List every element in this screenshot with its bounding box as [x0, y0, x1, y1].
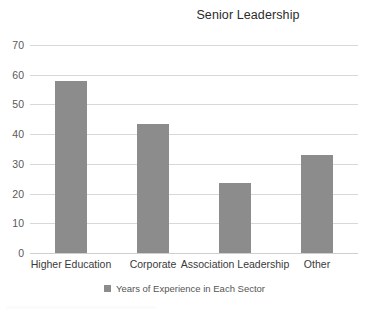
- x-axis-label: Association Leadership: [181, 258, 290, 270]
- x-axis-label: Other: [304, 258, 330, 270]
- legend-swatch-icon: [104, 285, 111, 292]
- y-axis-tick-label: 70: [12, 39, 24, 51]
- y-axis-tick-label: 30: [12, 158, 24, 170]
- bar: [137, 124, 169, 253]
- y-axis-tick-label: 60: [12, 69, 24, 81]
- legend-label: Years of Experience in Each Sector: [116, 283, 265, 294]
- y-axis-tick-label: 40: [12, 128, 24, 140]
- gridline: 70: [30, 45, 358, 46]
- y-axis-tick-label: 20: [12, 188, 24, 200]
- y-axis-tick-label: 10: [12, 217, 24, 229]
- scan-artifact: [6, 306, 156, 309]
- chart-screenshot: Senior Leadership 010203040506070 Higher…: [0, 0, 369, 314]
- y-axis-tick-label: 0: [18, 247, 24, 259]
- plot-area: 010203040506070: [30, 45, 358, 253]
- chart-legend: Years of Experience in Each Sector: [0, 283, 369, 294]
- x-axis-label: Corporate: [130, 258, 177, 270]
- gridline: 0: [30, 253, 358, 254]
- x-axis-labels: Higher EducationCorporateAssociation Lea…: [30, 258, 358, 274]
- chart-title: Senior Leadership: [130, 8, 366, 22]
- bar: [55, 81, 87, 253]
- x-axis-label: Higher Education: [31, 258, 112, 270]
- y-axis-tick-label: 50: [12, 98, 24, 110]
- bar: [219, 183, 251, 253]
- gridline: 60: [30, 75, 358, 76]
- bar: [301, 155, 333, 253]
